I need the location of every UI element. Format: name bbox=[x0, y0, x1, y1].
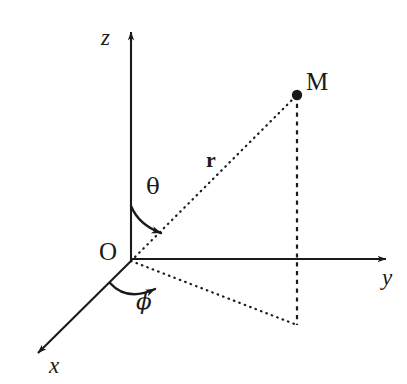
phi-angle-label: ϕ bbox=[136, 290, 152, 313]
theta-angle-label: θ bbox=[146, 175, 160, 198]
point-m-label: M bbox=[306, 69, 328, 94]
point-m-dot bbox=[292, 90, 302, 100]
origin-label: O bbox=[99, 239, 117, 264]
radius-label: r bbox=[206, 149, 216, 171]
ground-projection-segment bbox=[131, 261, 297, 325]
angle-arcs-group bbox=[110, 206, 161, 294]
y-axis-label: y bbox=[382, 266, 392, 289]
diagram-canvas bbox=[0, 0, 407, 384]
spherical-coordinates-figure: z y x O M r θ ϕ bbox=[0, 0, 407, 384]
x-axis-label: x bbox=[49, 354, 59, 377]
z-axis-label: z bbox=[101, 26, 110, 49]
segments-group bbox=[131, 95, 297, 325]
theta-arc bbox=[131, 206, 161, 233]
x-axis-line bbox=[38, 261, 131, 353]
axes-group bbox=[38, 32, 386, 353]
